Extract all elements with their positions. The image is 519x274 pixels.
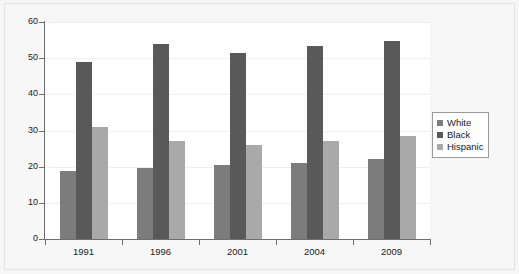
x-axis-tick bbox=[276, 240, 277, 245]
y-axis-tick-label: 40 bbox=[8, 89, 38, 98]
x-axis-tick-label: 1996 bbox=[131, 247, 191, 257]
legend-swatch-icon bbox=[437, 132, 443, 138]
y-axis-tick-label: 30 bbox=[8, 126, 38, 135]
x-axis-tick bbox=[45, 240, 46, 245]
legend-item-label: Hispanic bbox=[447, 142, 483, 152]
bar-black-2009 bbox=[384, 41, 400, 239]
y-axis-tick-label: 60 bbox=[8, 17, 38, 26]
legend-item-label: White bbox=[447, 118, 471, 128]
bar-group-container bbox=[45, 22, 430, 239]
bar-white-1996 bbox=[137, 168, 153, 239]
bar-black-1996 bbox=[153, 44, 169, 239]
legend-swatch-icon bbox=[437, 120, 443, 126]
legend-item-white[interactable]: White bbox=[437, 117, 483, 129]
legend-item-black[interactable]: Black bbox=[437, 129, 483, 141]
bar-hispanic-1991 bbox=[92, 127, 108, 239]
y-axis-tick-label: 50 bbox=[8, 53, 38, 62]
bar-hispanic-1996 bbox=[169, 141, 185, 239]
chart-canvas: 0102030405060 19911996200120042009 White… bbox=[0, 0, 519, 274]
y-axis-tick-label: 10 bbox=[8, 198, 38, 207]
legend-swatch-icon bbox=[437, 144, 443, 150]
x-axis-tick bbox=[353, 240, 354, 245]
bar-black-2001 bbox=[230, 53, 246, 239]
legend-item-hispanic[interactable]: Hispanic bbox=[437, 141, 483, 153]
bar-hispanic-2001 bbox=[246, 145, 262, 239]
y-axis-labels: 0102030405060 bbox=[2, 0, 38, 274]
bar-white-1991 bbox=[60, 171, 76, 239]
bar-black-1991 bbox=[76, 62, 92, 239]
x-axis-line bbox=[44, 239, 431, 240]
bar-white-2009 bbox=[368, 159, 384, 239]
x-axis-tick bbox=[122, 240, 123, 245]
x-axis-tick bbox=[199, 240, 200, 245]
x-axis-tick-label: 2009 bbox=[362, 247, 422, 257]
x-axis-tick-label: 2004 bbox=[285, 247, 345, 257]
bar-white-2004 bbox=[291, 163, 307, 239]
y-axis-tick-label: 20 bbox=[8, 162, 38, 171]
y-axis-tick-label: 0 bbox=[8, 234, 38, 243]
bar-black-2004 bbox=[307, 46, 323, 239]
x-axis-tick-label: 2001 bbox=[208, 247, 268, 257]
chart-legend: WhiteBlackHispanic bbox=[432, 112, 489, 158]
bar-white-2001 bbox=[214, 165, 230, 240]
bar-hispanic-2004 bbox=[323, 141, 339, 239]
x-axis-tick-label: 1991 bbox=[54, 247, 114, 257]
x-axis-tick bbox=[430, 240, 431, 245]
bar-hispanic-2009 bbox=[400, 136, 416, 239]
legend-item-label: Black bbox=[447, 130, 470, 140]
